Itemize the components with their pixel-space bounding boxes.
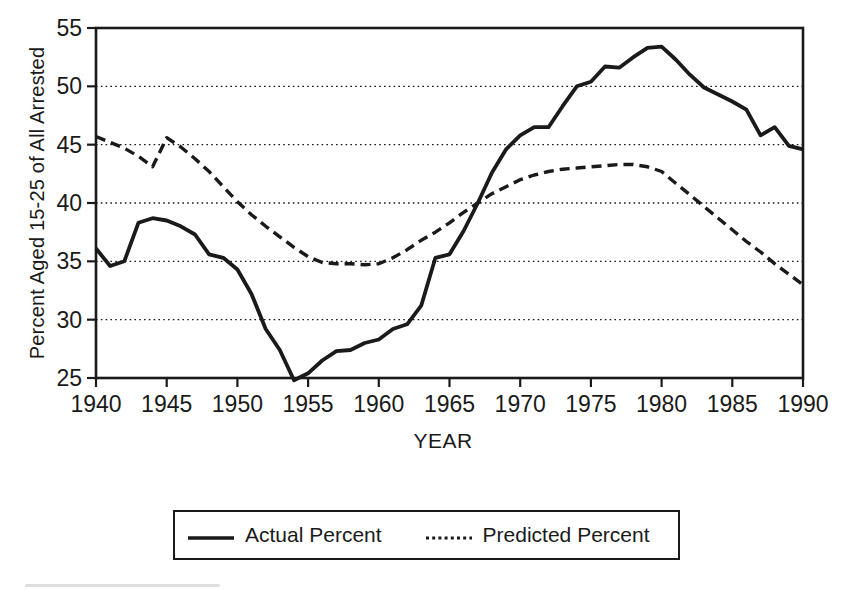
x-tick-label-1965: 1965 xyxy=(424,391,475,417)
predicted-percent-line xyxy=(96,137,803,285)
x-tick-label-1985: 1985 xyxy=(707,391,758,417)
y-tick-label-45: 45 xyxy=(56,132,82,158)
scanned-chart-page: 2530354045505519401945195019551960196519… xyxy=(0,0,841,590)
y-tick-label-40: 40 xyxy=(56,190,82,216)
scan-artifact-streak xyxy=(25,584,220,587)
x-tick-label-1990: 1990 xyxy=(777,391,828,417)
x-tick-label-1975: 1975 xyxy=(565,391,616,417)
legend-box: Actual Percent Predicted Percent xyxy=(173,510,680,560)
x-tick-label-1980: 1980 xyxy=(636,391,687,417)
x-tick-label-1970: 1970 xyxy=(495,391,546,417)
x-tick-label-1950: 1950 xyxy=(212,391,263,417)
x-tick-label-1940: 1940 xyxy=(70,391,121,417)
legend-label-actual: Actual Percent xyxy=(245,523,382,547)
y-tick-label-35: 35 xyxy=(56,248,82,274)
x-tick-label-1945: 1945 xyxy=(141,391,192,417)
legend-label-predicted: Predicted Percent xyxy=(483,523,650,547)
y-tick-label-30: 30 xyxy=(56,307,82,333)
actual-line-swatch xyxy=(188,523,234,547)
x-tick-label-1960: 1960 xyxy=(353,391,404,417)
x-axis-title: YEAR xyxy=(413,429,472,453)
predicted-line-swatch xyxy=(426,523,472,547)
actual-percent-line xyxy=(96,47,803,381)
chart-svg: 2530354045505519401945195019551960196519… xyxy=(0,0,841,470)
x-tick-label-1955: 1955 xyxy=(283,391,334,417)
y-tick-label-55: 55 xyxy=(56,15,82,41)
y-tick-label-25: 25 xyxy=(56,365,82,391)
y-tick-label-50: 50 xyxy=(56,73,82,99)
y-axis-title: Percent Aged 15-25 of All Arrested xyxy=(26,47,49,360)
